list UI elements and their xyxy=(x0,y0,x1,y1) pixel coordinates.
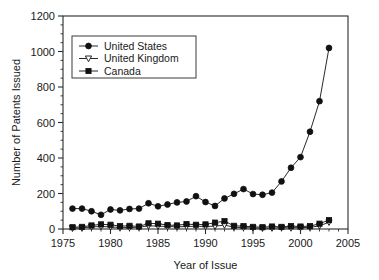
x-tick-label: 1990 xyxy=(193,237,217,249)
y-tick-label: 1200 xyxy=(31,10,55,22)
data-point-canada xyxy=(326,218,331,223)
data-point-canada xyxy=(222,219,227,224)
chart-canvas: 0200400600800100012001975198019851990199… xyxy=(0,0,379,280)
y-tick-label: 600 xyxy=(37,117,55,129)
legend-marker-filled-square xyxy=(86,68,91,73)
data-point-canada xyxy=(288,224,293,229)
x-tick-label: 1995 xyxy=(241,237,265,249)
data-point-united-states xyxy=(155,203,161,209)
x-tick-label: 1985 xyxy=(146,237,170,249)
y-tick-label: 0 xyxy=(49,223,55,235)
y-tick-label: 1000 xyxy=(31,46,55,58)
data-point-united-states xyxy=(241,186,247,192)
legend-label-united-kingdom: United Kingdom xyxy=(104,52,179,64)
data-point-canada xyxy=(89,223,94,228)
data-point-united-states xyxy=(307,129,313,135)
data-point-united-states xyxy=(174,199,180,205)
data-point-canada xyxy=(174,223,179,228)
data-point-united-states xyxy=(89,208,95,214)
x-tick-label: 2000 xyxy=(288,237,312,249)
data-point-canada xyxy=(184,221,189,226)
data-point-canada xyxy=(127,223,132,228)
data-point-united-states xyxy=(193,193,199,199)
data-point-united-states xyxy=(250,191,256,197)
data-point-canada xyxy=(231,223,236,228)
data-point-united-states xyxy=(222,196,228,202)
data-point-canada xyxy=(203,222,208,227)
data-point-canada xyxy=(250,224,255,229)
data-point-canada xyxy=(298,224,303,229)
data-point-united-states xyxy=(165,202,171,208)
data-point-united-states xyxy=(288,165,294,171)
y-axis-title: Number of Patents Issued xyxy=(10,59,22,186)
data-point-canada xyxy=(98,222,103,227)
data-point-canada xyxy=(269,224,274,229)
data-point-united-states xyxy=(231,191,237,197)
data-point-united-states xyxy=(117,207,123,213)
y-tick-label: 200 xyxy=(37,188,55,200)
y-tick-label: 400 xyxy=(37,152,55,164)
data-point-united-states xyxy=(136,206,142,212)
data-point-canada xyxy=(70,225,75,230)
data-point-canada xyxy=(117,224,122,229)
data-point-united-states xyxy=(184,199,190,205)
legend-label-united-states: United States xyxy=(104,40,167,52)
data-point-canada xyxy=(165,222,170,227)
data-point-united-states xyxy=(212,203,218,209)
y-tick-label: 800 xyxy=(37,81,55,93)
data-point-united-states xyxy=(108,207,114,213)
data-point-united-states xyxy=(203,199,209,205)
data-point-canada xyxy=(155,221,160,226)
x-tick-label: 1975 xyxy=(51,237,75,249)
data-point-united-states xyxy=(79,206,85,212)
data-point-canada xyxy=(279,224,284,229)
data-point-united-states xyxy=(70,206,76,212)
data-point-canada xyxy=(79,224,84,229)
data-point-united-states xyxy=(326,45,332,51)
data-point-canada xyxy=(212,220,217,225)
data-point-canada xyxy=(317,221,322,226)
x-tick-label: 1980 xyxy=(98,237,122,249)
data-point-united-states xyxy=(98,212,104,218)
data-point-united-states xyxy=(260,192,266,198)
legend-marker-filled-circle xyxy=(86,43,92,49)
data-point-united-states xyxy=(127,206,133,212)
x-axis-title: Year of Issue xyxy=(174,259,238,271)
data-point-canada xyxy=(260,225,265,230)
data-point-canada xyxy=(241,224,246,229)
data-point-united-states xyxy=(269,190,275,196)
data-point-united-states xyxy=(279,179,285,185)
data-point-canada xyxy=(146,221,151,226)
legend-label-canada: Canada xyxy=(104,65,141,77)
patents-line-chart: 0200400600800100012001975198019851990199… xyxy=(0,0,379,280)
data-point-canada xyxy=(108,222,113,227)
data-point-canada xyxy=(193,222,198,227)
data-point-united-states xyxy=(146,200,152,206)
data-point-united-states xyxy=(317,98,323,104)
x-tick-label: 2005 xyxy=(336,237,360,249)
data-point-united-states xyxy=(298,154,304,160)
data-point-canada xyxy=(136,224,141,229)
data-point-canada xyxy=(307,224,312,229)
